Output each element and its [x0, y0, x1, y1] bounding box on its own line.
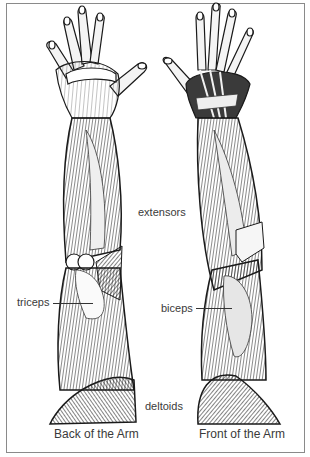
caption-front-of-arm: Front of the Arm [199, 428, 285, 440]
arm-illustration [0, 0, 310, 457]
label-triceps: triceps [17, 297, 49, 308]
label-biceps: biceps [161, 303, 193, 314]
back-arm [47, 6, 147, 424]
triceps-pointer-line [53, 303, 93, 304]
back-hand [47, 6, 147, 118]
label-deltoids: deltoids [145, 401, 183, 412]
biceps-pointer-line [196, 308, 232, 309]
front-deltoid [198, 375, 280, 424]
label-extensors: extensors [138, 207, 186, 218]
caption-back-of-arm: Back of the Arm [54, 428, 139, 440]
front-hand [163, 3, 253, 118]
